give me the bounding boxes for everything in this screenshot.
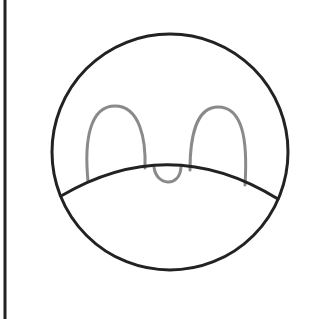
- face-drawing: [0, 0, 317, 319]
- background: [0, 0, 317, 319]
- drawing-canvas: Simple line drawing of a round face with…: [0, 0, 317, 319]
